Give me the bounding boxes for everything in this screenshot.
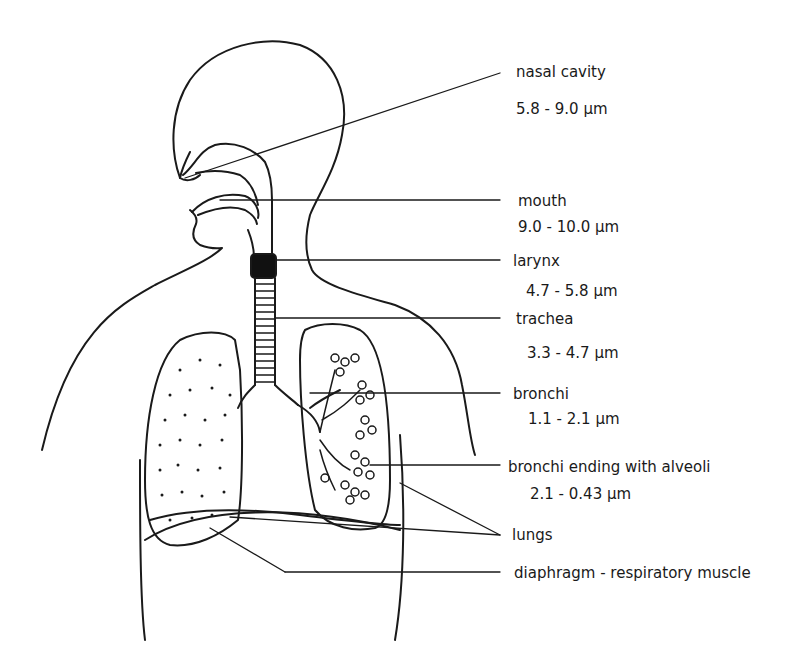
right-lung bbox=[300, 324, 390, 529]
alveoli-dots bbox=[159, 359, 232, 522]
mouth-passage bbox=[192, 195, 258, 224]
leader-diaphragm bbox=[210, 528, 285, 572]
leader-lungs-2 bbox=[230, 517, 500, 535]
range-nasal-cavity: 5.8 - 9.0 µm bbox=[516, 100, 608, 118]
range-bronchi: 1.1 - 2.1 µm bbox=[528, 410, 620, 428]
trachea-rings bbox=[256, 284, 274, 382]
range-larynx: 4.7 - 5.8 µm bbox=[526, 282, 618, 300]
nasal-passage bbox=[183, 144, 272, 255]
label-bronchi: bronchi bbox=[513, 385, 569, 403]
range-trachea: 3.3 - 4.7 µm bbox=[527, 344, 619, 362]
torso-right bbox=[395, 435, 403, 640]
label-trachea: trachea bbox=[516, 310, 573, 328]
leader-lungs-1 bbox=[400, 483, 500, 535]
leader-nasal-cavity bbox=[185, 73, 500, 178]
larynx-shape bbox=[251, 254, 276, 278]
bronchus-right-branch bbox=[298, 390, 340, 432]
bronchial-tree bbox=[320, 354, 376, 504]
label-lungs: lungs bbox=[512, 526, 553, 544]
leader-lines bbox=[185, 73, 500, 572]
range-alveoli: 2.1 - 0.43 µm bbox=[530, 485, 631, 503]
label-diaphragm: diaphragm - respiratory muscle bbox=[514, 564, 751, 582]
label-mouth: mouth bbox=[518, 192, 567, 210]
range-mouth: 9.0 - 10.0 µm bbox=[518, 218, 619, 236]
respiratory-diagram: nasal cavity 5.8 - 9.0 µm mouth 9.0 - 10… bbox=[0, 0, 805, 668]
face-profile bbox=[42, 152, 222, 450]
bronchus-left bbox=[238, 385, 298, 408]
label-alveoli: bronchi ending with alveoli bbox=[508, 458, 711, 476]
label-nasal-cavity: nasal cavity bbox=[516, 63, 606, 81]
label-larynx: larynx bbox=[513, 252, 560, 270]
